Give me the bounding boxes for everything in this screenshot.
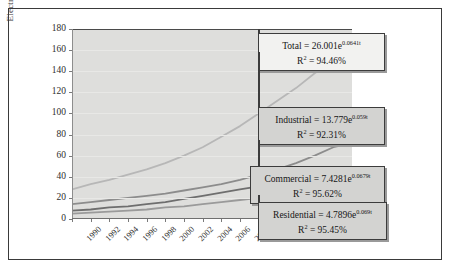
annotation-total-r2-sup: 2: [303, 54, 306, 61]
x-tick-mark-1994: [109, 219, 110, 222]
annotation-industrial-r2-sup: 2: [303, 128, 306, 135]
figure-frame: Electricity Consumption (kWh) 0204060801…: [8, 8, 442, 260]
x-tick-mark-1998: [147, 219, 148, 222]
y-tick-label-40: 40: [38, 171, 66, 181]
annotation-commercial-equation-prefix: Commercial = 7.4281e: [264, 174, 351, 184]
plot-top-border: [72, 29, 352, 30]
gridline-120: [72, 92, 352, 93]
x-tick-label-2000: 2000: [177, 224, 196, 243]
annotation-commercial-r2-value: = 95.62%: [305, 189, 342, 199]
x-tick-label-1996: 1996: [140, 224, 159, 243]
x-tick-label-1994: 1994: [121, 224, 140, 243]
annotation-industrial-exponent: 0.059t: [352, 113, 368, 120]
annotation-total-r2: R2 = 94.46%: [265, 52, 378, 67]
annotation-total-r2-value: = 94.46%: [309, 56, 346, 66]
y-axis-line: [72, 29, 73, 219]
y-tick-label-140: 140: [38, 65, 66, 75]
annotation-residential-exponent: 0.069t: [356, 208, 372, 215]
x-tick-mark-2000: [165, 219, 166, 222]
annotation-residential-r2: R2 = 95.45%: [265, 221, 380, 236]
y-axis-title-line2: (kWh): [15, 0, 25, 55]
y-tick-label-80: 80: [38, 129, 66, 139]
x-tick-mark-1996: [128, 219, 129, 222]
y-tick-label-60: 60: [38, 150, 66, 160]
x-tick-label-2004: 2004: [215, 224, 234, 243]
annotation-commercial-exponent: 0.0679t: [352, 172, 371, 179]
x-tick-label-1998: 1998: [159, 224, 178, 243]
annotation-industrial-equation: Industrial = 13.779e0.059t: [265, 111, 378, 126]
annotation-industrial-r2: R2 = 92.31%: [265, 126, 378, 141]
y-tick-label-120: 120: [38, 86, 66, 96]
annotation-total[interactable]: Total = 26.001e0.0641t R2 = 94.46%: [258, 33, 385, 71]
x-tick-label-1990: 1990: [84, 224, 103, 243]
annotation-total-equation-prefix: Total = 26.001e: [282, 41, 342, 51]
annotation-residential-r2-value: = 95.45%: [310, 225, 347, 235]
x-tick-mark-2008: [240, 219, 241, 222]
annotation-total-equation: Total = 26.001e0.0641t: [265, 37, 378, 52]
x-tick-mark-2004: [203, 219, 204, 222]
x-tick-mark-2002: [184, 219, 185, 222]
y-tick-label-160: 160: [38, 44, 66, 54]
annotation-residential-equation-prefix: Residential = 4.7896e: [273, 210, 356, 220]
annotation-residential-r2-sup: 2: [304, 223, 307, 230]
y-axis-title: Electricity Consumption (kWh): [5, 0, 23, 55]
annotation-residential[interactable]: Residential = 4.7896e0.069t R2 = 95.45%: [258, 202, 387, 240]
y-tick-label-20: 20: [38, 192, 66, 202]
annotation-industrial-r2-value: = 92.31%: [309, 130, 346, 140]
gridline-60: [72, 156, 352, 157]
leader-line-commercial: [258, 140, 260, 167]
x-tick-mark-1990: [72, 219, 73, 222]
y-tick-label-100: 100: [38, 107, 66, 117]
annotation-industrial-equation-prefix: Industrial = 13.779e: [275, 115, 352, 125]
annotation-commercial-r2-sup: 2: [299, 187, 302, 194]
chart-figure: Electricity Consumption (kWh) 0204060801…: [0, 0, 452, 274]
x-tick-label-1992: 1992: [103, 224, 122, 243]
leader-line-industrial: [258, 52, 260, 108]
x-tick-mark-1992: [91, 219, 92, 222]
annotation-residential-equation: Residential = 4.7896e0.069t: [265, 206, 380, 221]
y-tick-label-180: 180: [38, 23, 66, 33]
y-axis-title-line1: Electricity Consumption: [5, 0, 15, 21]
x-tick-label-2006: 2006: [233, 224, 252, 243]
annotation-commercial-equation: Commercial = 7.4281e0.0679t: [257, 170, 378, 185]
annotation-commercial[interactable]: Commercial = 7.4281e0.0679t R2 = 95.62%: [250, 166, 385, 204]
x-tick-mark-2006: [221, 219, 222, 222]
annotation-industrial[interactable]: Industrial = 13.779e0.059t R2 = 92.31%: [258, 107, 385, 145]
annotation-total-exponent: 0.0641t: [342, 39, 361, 46]
gridline-140: [72, 71, 352, 72]
annotation-commercial-r2: R2 = 95.62%: [257, 185, 378, 200]
y-tick-label-0: 0: [38, 213, 66, 223]
x-tick-label-2002: 2002: [196, 224, 215, 243]
